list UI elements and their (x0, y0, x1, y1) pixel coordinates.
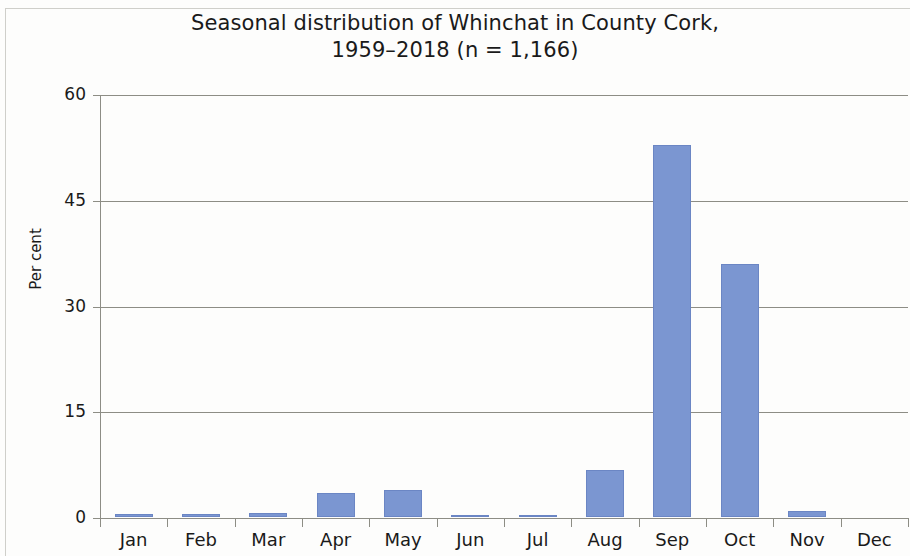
bar-jun (451, 515, 489, 517)
x-axis-tick-label: Feb (167, 529, 234, 550)
x-axis-tick (706, 518, 707, 527)
bar-apr (317, 493, 355, 517)
y-axis-tick-label: 60 (64, 84, 86, 104)
bar-jan (115, 514, 153, 517)
x-axis-tick (773, 518, 774, 527)
x-axis-tick-label: Jan (100, 529, 167, 550)
x-axis-tick-label: Oct (706, 529, 773, 550)
x-axis-tick (369, 518, 370, 527)
gridline (100, 412, 908, 413)
y-axis-tick-label: 30 (64, 296, 86, 316)
x-axis-tick (235, 518, 236, 527)
bar-mar (249, 513, 287, 517)
y-axis-tick (93, 307, 101, 308)
y-axis-tick (93, 95, 101, 96)
bar-may (384, 490, 422, 517)
x-axis-tick (302, 518, 303, 527)
x-axis-tick (841, 518, 842, 527)
x-axis-tick-label: Mar (235, 529, 302, 550)
x-axis-tick (167, 518, 168, 527)
gridline (100, 307, 908, 308)
x-axis-tick (437, 518, 438, 527)
y-axis-tick (93, 412, 101, 413)
chart-title-line-2: 1959–2018 (n = 1,166) (0, 37, 910, 64)
bar-aug (586, 470, 624, 517)
figure-border-top (5, 8, 910, 9)
bar-oct (721, 264, 759, 517)
y-axis-tick-label: 45 (64, 190, 86, 210)
bar-sep (653, 145, 691, 517)
x-axis-tick-label: Sep (639, 529, 706, 550)
x-axis-tick (504, 518, 505, 527)
y-axis-tick-label: 0 (75, 507, 86, 527)
x-axis-tick-label: Jun (437, 529, 504, 550)
x-axis-tick (571, 518, 572, 527)
chart-title: Seasonal distribution of Whinchat in Cou… (0, 10, 910, 64)
plot-area: JanFebMarAprMayJunJulAugSepOctNovDec (100, 95, 908, 518)
x-axis-tick-label: Jul (504, 529, 571, 550)
bar-feb (182, 514, 220, 517)
x-axis-tick (639, 518, 640, 527)
x-axis-tick-label: Apr (302, 529, 369, 550)
x-axis-tick-label: Dec (841, 529, 908, 550)
bar-jul (519, 515, 557, 517)
x-axis-tick-label: May (369, 529, 436, 550)
x-axis-tick (100, 518, 101, 527)
gridline (100, 201, 908, 202)
x-axis-tick-label: Aug (571, 529, 638, 550)
y-axis-tick-labels: 015304560 (0, 95, 100, 525)
y-axis-tick-label: 15 (64, 401, 86, 421)
chart-figure: Seasonal distribution of Whinchat in Cou… (0, 0, 910, 556)
y-axis-tick (93, 201, 101, 202)
bar-nov (788, 511, 826, 517)
x-axis-tick-label: Nov (773, 529, 840, 550)
chart-title-line-1: Seasonal distribution of Whinchat in Cou… (191, 11, 719, 35)
gridline (100, 95, 908, 96)
x-axis-tick (908, 518, 909, 527)
